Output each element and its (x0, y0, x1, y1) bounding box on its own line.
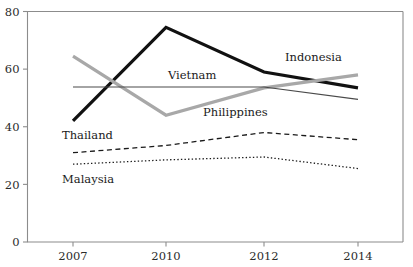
series-label-indonesia: Indonesia (285, 50, 342, 64)
y-tick-label: 40 (5, 120, 20, 134)
axis-frame (28, 12, 404, 243)
y-tick-label: 20 (5, 178, 20, 192)
line-chart: 0204060802007201020122014IndonesiaPhilip… (0, 0, 413, 267)
x-tick-label: 2010 (151, 249, 180, 263)
y-tick-label: 60 (5, 62, 20, 76)
series-line-vietnam (73, 87, 358, 99)
y-tick-label: 0 (12, 235, 19, 249)
series-label-malaysia: Malaysia (62, 172, 114, 186)
series-line-thailand (73, 133, 358, 153)
x-tick-label: 2014 (343, 249, 372, 263)
series-label-thailand: Thailand (62, 128, 114, 142)
x-tick-label: 2007 (58, 249, 87, 263)
chart-canvas: 0204060802007201020122014IndonesiaPhilip… (0, 0, 413, 267)
series-line-malaysia (73, 157, 358, 169)
series-label-vietnam: Vietnam (167, 68, 216, 82)
series-label-philippines: Philippines (203, 105, 268, 119)
x-tick-label: 2012 (249, 249, 278, 263)
y-tick-label: 80 (5, 5, 20, 19)
